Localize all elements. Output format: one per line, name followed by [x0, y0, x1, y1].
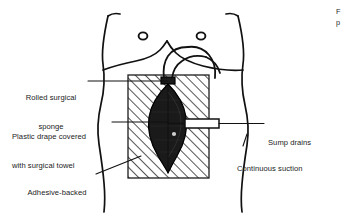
label-adhesive-backed-plastic: Adhesive-backed plastic	[17, 169, 97, 217]
label-rolled-surgical-sponge-line1: Rolled surgical	[14, 93, 88, 103]
label-continuous-suction-line1: Continuous suction	[237, 164, 343, 174]
label-plastic-drape-line1: Plastic drape covered	[12, 132, 112, 142]
edge-text-line2: p	[336, 18, 348, 28]
label-adhesive-backed-plastic-line1: Adhesive-backed	[17, 188, 97, 198]
edge-text-line1: F	[336, 7, 348, 17]
left-nipple-marker	[139, 32, 148, 39]
label-continuous-suction: Continuous suction	[237, 145, 343, 193]
right-nipple-marker	[197, 32, 206, 39]
medical-illustration-figure: Rolled surgical sponge Plastic drape cov…	[0, 0, 348, 217]
